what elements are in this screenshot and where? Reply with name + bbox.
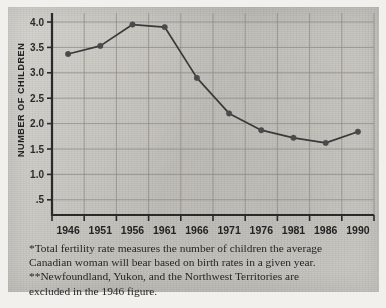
- y-tick-label: 2.5: [30, 93, 44, 104]
- data-point[interactable]: [65, 51, 70, 56]
- data-point[interactable]: [291, 135, 296, 140]
- scanned-chart-panel: 4.03.53.02.52.01.51.0.5 1946195119561961…: [8, 7, 379, 292]
- y-tick-label: 3.5: [30, 42, 44, 53]
- footnote-line-4: excluded in the 1946 figure.: [29, 284, 369, 298]
- page-root: 4.03.53.02.52.01.51.0.5 1946195119561961…: [0, 0, 386, 308]
- data-point[interactable]: [259, 128, 264, 133]
- y-tick-label: 1.0: [30, 169, 44, 180]
- x-tick-label: 1990: [346, 224, 370, 236]
- y-tick-label: .5: [36, 194, 45, 205]
- y-tick-label: 3.0: [30, 67, 44, 78]
- data-point[interactable]: [226, 111, 231, 116]
- y-tick-label: 1.5: [30, 144, 44, 155]
- x-tick-label: 1976: [250, 224, 274, 236]
- x-tick-label: 1981: [282, 224, 306, 236]
- x-tick-label: 1966: [185, 224, 209, 236]
- data-point[interactable]: [162, 24, 167, 29]
- y-tick-label: 4.0: [30, 17, 44, 28]
- data-point[interactable]: [194, 75, 199, 80]
- x-tick-label: 1961: [153, 224, 177, 236]
- x-tick-label: 1951: [89, 224, 113, 236]
- y-axis-tick-labels: 4.03.53.02.52.01.51.0.5: [30, 17, 44, 206]
- footnote-line-2: Canadian woman will bear based on birth …: [29, 255, 369, 269]
- data-point[interactable]: [130, 22, 135, 27]
- x-tick-label: 1946: [56, 224, 80, 236]
- x-axis-tick-labels: 1946195119561961196619711976198119861990: [56, 224, 369, 236]
- x-tick-label: 1956: [121, 224, 145, 236]
- x-tick-label: 1986: [314, 224, 338, 236]
- footnote-line-3: **Newfoundland, Yukon, and the Northwest…: [29, 269, 369, 283]
- footnote-block: *Total fertility rate measures the numbe…: [29, 241, 369, 298]
- footnote-line-1: *Total fertility rate measures the numbe…: [29, 241, 369, 255]
- y-tick-label: 2.0: [30, 118, 44, 129]
- data-point[interactable]: [355, 129, 360, 134]
- x-tick-label: 1971: [217, 224, 241, 236]
- data-point[interactable]: [323, 140, 328, 145]
- data-point[interactable]: [98, 43, 103, 48]
- y-axis-title: NUMBER OF CHILDREN: [16, 43, 26, 157]
